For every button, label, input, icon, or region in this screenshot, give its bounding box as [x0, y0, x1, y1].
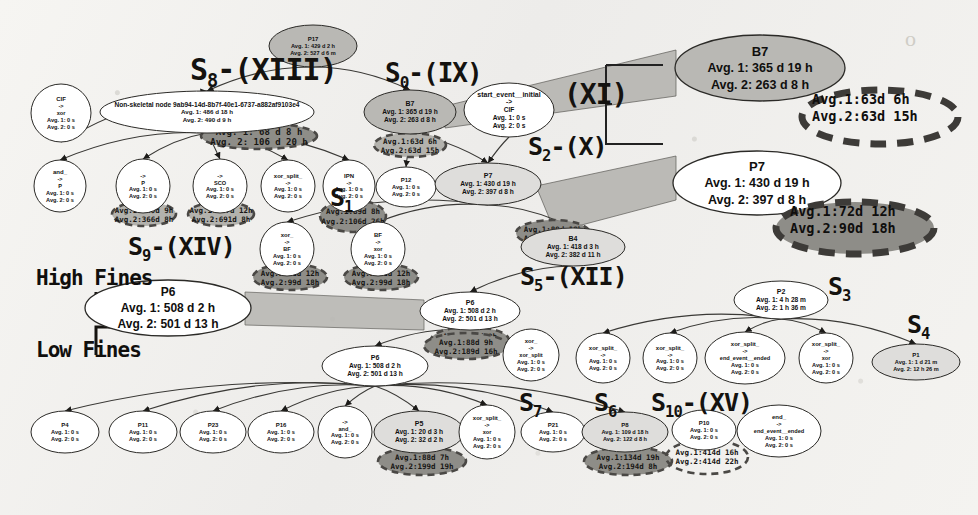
skeleton-label-xi: (XI) — [564, 78, 627, 111]
label-suffix: -(X) — [550, 132, 606, 161]
low-fines-label: Low Fines — [36, 338, 141, 362]
label-base: S — [907, 310, 921, 339]
skeleton-label-s6: S6 — [594, 388, 616, 421]
label-suffix: -(XII) — [542, 262, 626, 291]
dashed-callout-line: Avg.2:63d 15h — [812, 108, 918, 124]
label-subscript: 8 — [207, 70, 217, 91]
label-subscript: 4 — [921, 325, 929, 343]
skeleton-label-s10: S10-(XV) — [651, 388, 752, 421]
skeleton-label-s0: S0-(IX) — [385, 58, 482, 92]
label-subscript: 6 — [608, 403, 616, 421]
skeleton-label-s2: S2-(X) — [528, 132, 607, 165]
label-base: S — [828, 272, 842, 301]
dashed-callout-line: Avg.1:63d 6h — [812, 91, 910, 107]
label-base: S — [651, 388, 665, 417]
label-base: S — [330, 183, 344, 212]
label-base: S — [519, 388, 533, 417]
skeleton-label-s7: S7 — [519, 388, 541, 421]
label-base: S — [385, 58, 400, 88]
b7-dashed-annotation: Avg.1:63d 6hAvg.2:63d 15h — [802, 90, 958, 144]
skeleton-label-s3: S3 — [828, 272, 850, 305]
label-suffix: -(XV) — [682, 388, 752, 417]
label-base: S — [128, 232, 142, 261]
dashed-callout-line: Avg.2:90d 18h — [790, 220, 896, 236]
label-suffix: -(IX) — [408, 58, 481, 88]
p7-dashed-annotation: Avg.1:72d 12hAvg.2:90d 18h — [776, 202, 934, 254]
label-suffix: (XI) — [564, 78, 627, 111]
skeleton-label-s8: S8-(XIII) — [190, 52, 337, 91]
label-suffix: -(XIII) — [217, 52, 336, 87]
diagram-canvas: o Avg. 1: 68 d 8 hAvg. 2: 106 d 20 hAvg.… — [0, 0, 978, 515]
skeleton-label-s5: S5-(XII) — [520, 262, 627, 295]
label-subscript: 7 — [533, 403, 541, 421]
skeleton-label-s1: S1 — [330, 183, 352, 216]
skeleton-label-s9: S9-(XIV) — [128, 232, 235, 265]
label-subscript: 1 — [344, 198, 352, 216]
dashed-callout-line: Avg.1:72d 12h — [790, 203, 896, 219]
label-suffix: -(XIV) — [150, 232, 234, 261]
label-subscript: 3 — [842, 287, 850, 305]
label-subscript: 10 — [665, 403, 682, 421]
label-base: S — [528, 132, 542, 161]
label-base: S — [520, 262, 534, 291]
skeleton-label-s4: S4 — [907, 310, 929, 343]
label-base: S — [594, 388, 608, 417]
high-fines-label: High Fines — [36, 266, 152, 290]
label-base: S — [190, 52, 207, 87]
